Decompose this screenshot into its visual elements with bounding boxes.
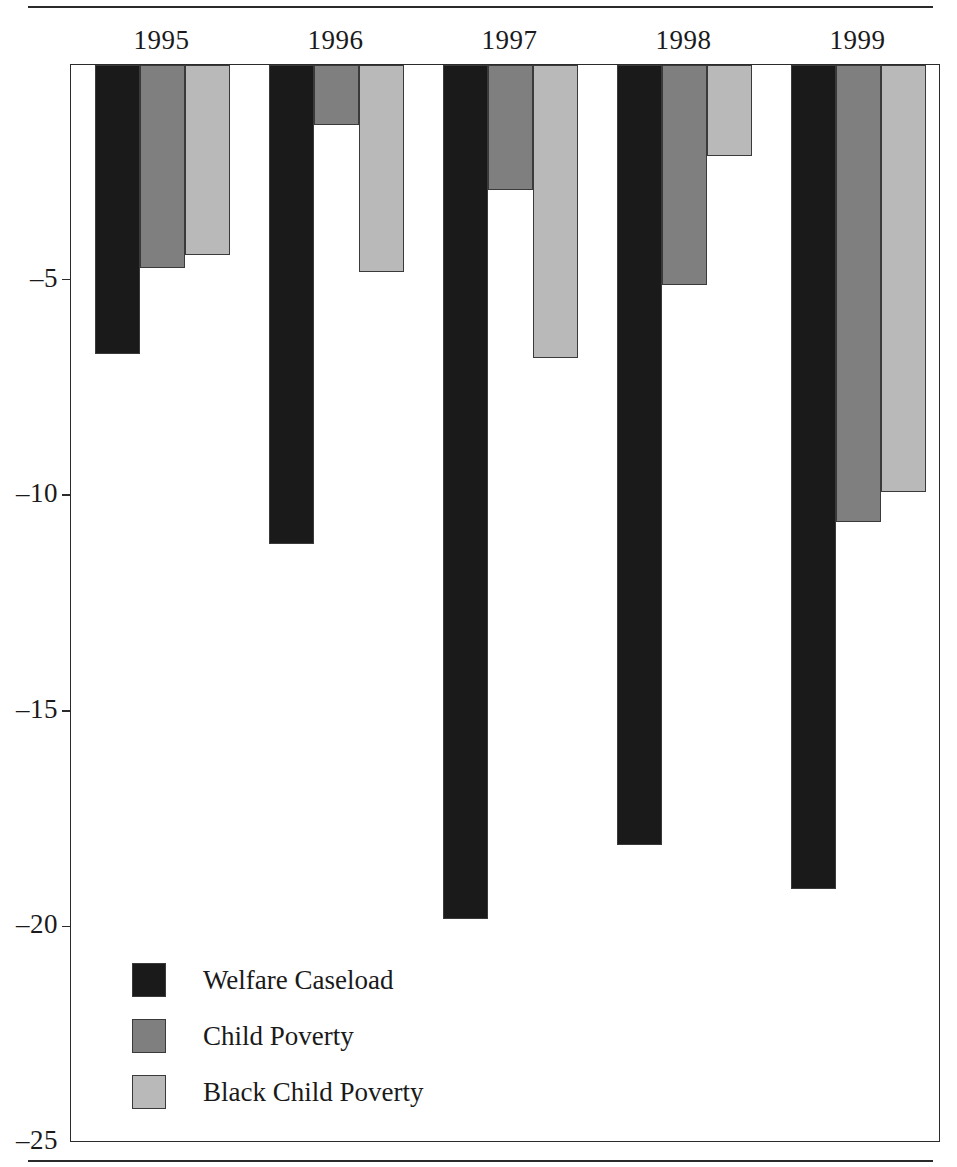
bar (533, 65, 578, 358)
bar (359, 65, 404, 272)
bar (881, 65, 926, 492)
bar (140, 65, 185, 268)
chart-legend: Welfare CaseloadChild PovertyBlack Child… (132, 952, 423, 1120)
bar (314, 65, 359, 125)
y-axis-tick-label: –15 (0, 696, 58, 724)
y-axis-tick-label: –10 (0, 480, 58, 508)
bar (617, 65, 662, 845)
bar (443, 65, 488, 919)
bar (791, 65, 836, 889)
legend-swatch-icon (132, 963, 166, 997)
bar (836, 65, 881, 522)
top-rule (28, 6, 933, 8)
legend-item: Child Poverty (132, 1008, 423, 1064)
x-axis-label-1999: 1999 (788, 26, 928, 54)
x-axis-label-1997: 1997 (440, 26, 580, 54)
legend-label: Welfare Caseload (203, 965, 393, 995)
y-axis-tick-label-text: –20 (2, 911, 58, 938)
bar (488, 65, 533, 190)
bar (662, 65, 707, 285)
y-axis-tick-label-text: –15 (2, 696, 58, 723)
y-axis-tick-label: –5 (0, 265, 58, 293)
bottom-rule (28, 1160, 933, 1162)
y-axis-tick-label-text: –25 (2, 1127, 58, 1154)
y-axis-tick-label-text: –5 (2, 265, 58, 292)
x-axis-label-1998: 1998 (614, 26, 754, 54)
legend-item: Welfare Caseload (132, 952, 423, 1008)
figure: 19951996199719981999 –5–10–15–20–25 Welf… (0, 0, 957, 1167)
x-axis-label-1995: 1995 (92, 26, 232, 54)
legend-label: Child Poverty (203, 1021, 354, 1051)
legend-swatch-icon (132, 1075, 166, 1109)
bar (185, 65, 230, 255)
legend-item: Black Child Poverty (132, 1064, 423, 1120)
bar (707, 65, 752, 156)
bar (269, 65, 314, 544)
y-axis-tick-label: –20 (0, 911, 58, 939)
x-axis-label-1996: 1996 (266, 26, 406, 54)
legend-label: Black Child Poverty (203, 1077, 423, 1107)
y-axis-tick-label: –25 (0, 1127, 58, 1155)
y-axis-tick-label-text: –10 (2, 480, 58, 507)
legend-swatch-icon (132, 1019, 166, 1053)
bar (95, 65, 140, 354)
